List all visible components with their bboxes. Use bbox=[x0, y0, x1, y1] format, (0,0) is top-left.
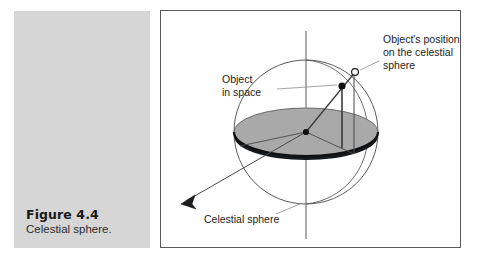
label-object-in-space-line1: Object bbox=[222, 73, 252, 85]
label-object-in-space-line2: in space bbox=[222, 86, 261, 98]
figure-number: Figure 4.4 bbox=[26, 208, 144, 222]
object-in-space-dot bbox=[338, 82, 345, 89]
figure-frame: Object in space Object's position on the… bbox=[160, 10, 461, 248]
direction-arrow-head bbox=[181, 195, 196, 209]
celestial-sphere-diagram: Object in space Object's position on the… bbox=[161, 11, 460, 247]
label-object-position-line3: sphere bbox=[383, 59, 415, 71]
celestial-sphere-leader bbox=[276, 204, 300, 214]
label-object-position-line1: Object's position bbox=[383, 33, 460, 45]
sphere-center-dot bbox=[303, 129, 309, 135]
object-position-leader bbox=[360, 61, 379, 70]
object-in-space-leader bbox=[277, 85, 337, 89]
figure-page: Figure 4.4 Celestial sphere. bbox=[0, 0, 479, 266]
label-object-position-line2: on the celestial bbox=[383, 46, 453, 58]
label-celestial-sphere: Celestial sphere bbox=[204, 213, 279, 225]
caption-block: Figure 4.4 Celestial sphere. bbox=[26, 208, 144, 236]
figure-title: Celestial sphere. bbox=[26, 223, 144, 236]
object-on-sphere-marker bbox=[352, 69, 359, 76]
caption-panel: Figure 4.4 Celestial sphere. bbox=[14, 11, 150, 248]
